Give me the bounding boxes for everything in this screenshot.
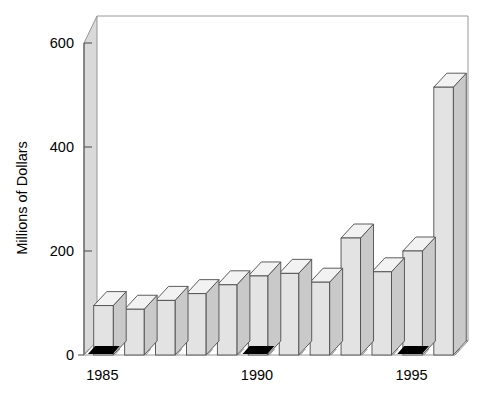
bar-side-face	[361, 224, 374, 355]
bar-side-face	[299, 259, 312, 355]
y-axis-title: Millions of Dollars	[14, 141, 30, 255]
y-tick-label-600: 600	[50, 35, 74, 51]
bar-front-face	[279, 273, 298, 355]
bar-front-face	[310, 282, 329, 355]
y-tick-label-0: 0	[66, 347, 74, 363]
bar-1993	[341, 224, 373, 355]
bar-front-face	[186, 294, 205, 355]
bar-1994	[372, 258, 404, 355]
bar-side-face	[330, 268, 343, 355]
bar-side-face	[391, 258, 404, 355]
bar-side-face	[422, 237, 435, 355]
bar-front-face	[403, 251, 422, 355]
bar-front-face	[434, 87, 453, 355]
bar-1986	[125, 295, 157, 355]
bar-1988	[186, 280, 218, 355]
x-axis-label-1990: 1990	[241, 367, 273, 383]
bar-1985	[94, 292, 126, 355]
bar-front-face	[248, 276, 267, 355]
y-tick-label-400: 400	[50, 139, 74, 155]
bar-1989	[217, 271, 249, 355]
bar-1996	[434, 73, 466, 355]
bar-1992	[310, 268, 342, 355]
bar-front-face	[372, 272, 391, 355]
bar-1991	[279, 259, 311, 355]
bar-side-face	[268, 262, 281, 355]
bar-side-face	[453, 73, 466, 355]
x-axis-label-1995: 1995	[395, 367, 427, 383]
chart-canvas: 600 400 200 0 Millions of Dollars 198519…	[0, 0, 479, 399]
bar-chart-figure: 600 400 200 0 Millions of Dollars 198519…	[0, 0, 479, 399]
bar-front-face	[156, 300, 175, 355]
bar-front-face	[125, 309, 144, 355]
bar-1995	[403, 237, 435, 355]
x-axis-label-1985: 1985	[86, 367, 118, 383]
bar-side-face	[237, 271, 250, 355]
bar-front-face	[217, 285, 236, 355]
y-tick-label-200: 200	[50, 243, 74, 259]
bar-1987	[156, 286, 188, 355]
bar-1990	[248, 262, 280, 355]
bar-front-face	[341, 238, 360, 355]
